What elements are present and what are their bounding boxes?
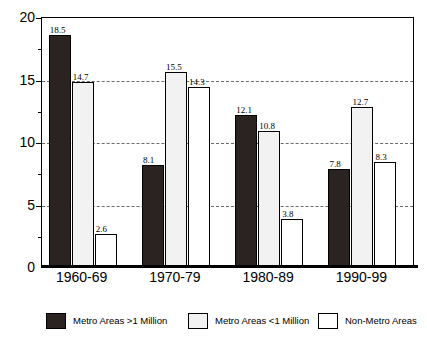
bar <box>328 169 350 267</box>
y-axis-tick-label: 20 <box>3 10 35 24</box>
x-axis-tick-label: 1960-69 <box>37 270 127 284</box>
y-axis-tick-label: 5 <box>3 198 35 212</box>
y-tick-minor <box>38 174 42 175</box>
bar-value-label: 12.1 <box>236 106 252 115</box>
bar-value-label: 8.1 <box>143 156 154 165</box>
bar-value-label: 3.8 <box>282 210 293 219</box>
y-axis-tick-label: 15 <box>3 73 35 87</box>
y-axis-tick-label: 10 <box>3 135 35 149</box>
plot-area: 18.514.72.68.115.514.312.110.83.87.812.7… <box>41 17 414 267</box>
bar <box>49 35 71 266</box>
legend-label: Metro Areas <1 Million <box>215 316 309 326</box>
bar <box>72 82 94 266</box>
bar <box>188 87 210 266</box>
x-axis-tick-label: 1990-99 <box>316 270 406 284</box>
legend-item: Non-Metro Areas <box>318 311 417 331</box>
bar-value-label: 12.7 <box>352 98 368 107</box>
y-tick-minor <box>38 49 42 50</box>
y-tick-major <box>36 81 42 82</box>
y-tick-major <box>36 143 42 144</box>
bar <box>235 115 257 266</box>
bar <box>281 219 303 267</box>
x-axis-tick-label: 1980-89 <box>223 270 313 284</box>
bar-value-label: 7.8 <box>329 160 340 169</box>
chart-legend: Metro Areas >1 MillionMetro Areas <1 Mil… <box>46 311 386 335</box>
legend-swatch <box>318 313 338 329</box>
y-tick-minor <box>38 112 42 113</box>
bar <box>351 107 373 266</box>
bar-value-label: 14.7 <box>73 73 89 82</box>
y-axis-tick-label: 0 <box>3 260 35 274</box>
legend-item: Metro Areas >1 Million <box>46 311 167 331</box>
y-tick-major <box>36 18 42 19</box>
legend-label: Non-Metro Areas <box>345 316 417 326</box>
bar <box>258 131 280 266</box>
bar <box>374 162 396 266</box>
bar-value-label: 14.3 <box>189 78 205 87</box>
y-tick-major <box>36 206 42 207</box>
x-axis-tick-label: 1970-79 <box>130 270 220 284</box>
chart-container: 20151050 18.514.72.68.115.514.312.110.83… <box>0 0 427 347</box>
bar-value-label: 2.6 <box>96 225 107 234</box>
bar <box>165 72 187 266</box>
legend-label: Metro Areas >1 Million <box>73 316 167 326</box>
bar <box>95 234 117 267</box>
y-tick-minor <box>38 237 42 238</box>
legend-item: Metro Areas <1 Million <box>188 311 309 331</box>
bar-value-label: 8.3 <box>375 153 386 162</box>
legend-swatch <box>188 313 208 329</box>
legend-swatch <box>46 313 66 329</box>
bar-value-label: 15.5 <box>166 63 182 72</box>
bar-value-label: 10.8 <box>259 122 275 131</box>
gridline <box>42 81 413 82</box>
bar <box>142 165 164 266</box>
bar-value-label: 18.5 <box>50 26 66 35</box>
